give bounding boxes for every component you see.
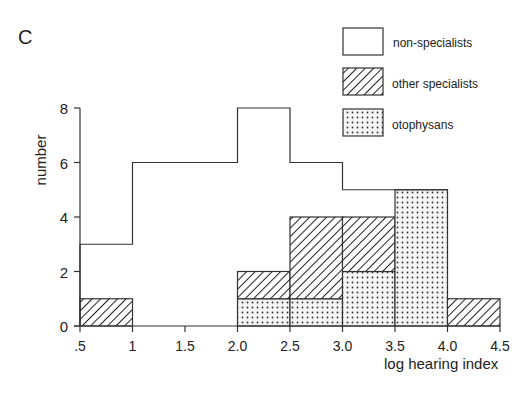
bar-other-specialists <box>343 217 396 272</box>
x-ticks: .511.52.02.53.03.54.04.5 <box>74 326 510 354</box>
bar-other-specialists <box>238 272 291 299</box>
y-tick-label: 8 <box>60 100 68 117</box>
x-tick-label: 3.0 <box>333 338 353 354</box>
bar-other-specialists <box>80 299 133 326</box>
y-axis-label: number <box>32 135 49 186</box>
bar-otophysans <box>290 299 343 326</box>
bar-otophysans <box>238 299 291 326</box>
x-tick-label: 3.5 <box>385 338 405 354</box>
legend-swatch-dotted <box>343 109 383 136</box>
legend-swatch-open <box>343 28 383 55</box>
y-tick-label: 0 <box>60 318 68 335</box>
bar-otophysans <box>343 272 396 327</box>
legend-swatch-hatched <box>343 68 383 95</box>
x-tick-label: 4.5 <box>490 338 510 354</box>
x-tick-label: .5 <box>74 338 86 354</box>
y-ticks: 02468 <box>60 100 80 335</box>
x-tick-label: 1 <box>129 338 137 354</box>
x-tick-label: 2.0 <box>228 338 248 354</box>
legend: non-specialists other specialists otophy… <box>343 28 478 136</box>
x-tick-label: 1.5 <box>175 338 195 354</box>
bars-layer <box>80 190 500 326</box>
y-tick-label: 6 <box>60 155 68 172</box>
legend-label-otophysans: otophysans <box>392 118 453 132</box>
legend-label-other-specialists: other specialists <box>392 77 478 91</box>
x-tick-label: 4.0 <box>438 338 458 354</box>
legend-label-non-specialists: non-specialists <box>393 36 472 50</box>
y-tick-label: 2 <box>60 264 68 281</box>
y-tick-label: 4 <box>60 209 68 226</box>
bar-other-specialists <box>448 299 501 326</box>
x-axis-label: log hearing index <box>384 355 499 372</box>
histogram-chart: C 02468 .511.52.02.53.03.54.04.5 log hea… <box>0 0 523 394</box>
bar-otophysans <box>395 190 448 326</box>
panel-label: C <box>18 26 32 48</box>
x-tick-label: 2.5 <box>280 338 300 354</box>
bar-other-specialists <box>290 217 343 299</box>
